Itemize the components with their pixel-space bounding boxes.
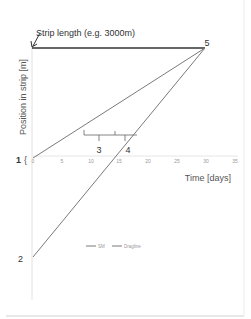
dragline-series-line xyxy=(33,48,205,257)
x-tick: 0 xyxy=(32,158,35,164)
brace-icon: { xyxy=(24,155,27,165)
point-label-4: 4 xyxy=(125,145,130,155)
x-tick: 30 xyxy=(203,158,209,164)
legend-sm-label: SM xyxy=(98,244,105,249)
point-label-1: 1 xyxy=(16,155,21,165)
legend: SM Dragline xyxy=(86,244,141,249)
time-position-diagram: 0 5 10 15 20 25 30 35 Time [days] Positi… xyxy=(0,0,251,319)
x-tick: 5 xyxy=(61,158,64,164)
x-tick-labels: 0 5 10 15 20 25 30 35 xyxy=(32,158,238,164)
x-tick: 20 xyxy=(145,158,151,164)
point-label-5: 5 xyxy=(204,38,209,48)
strip-length-label: Strip length (e.g. 3000m) xyxy=(36,28,135,38)
point-label-2: 2 xyxy=(18,254,23,264)
x-tick: 15 xyxy=(116,158,122,164)
x-axis-title: Time [days] xyxy=(185,173,231,183)
gap-bracket xyxy=(84,130,137,141)
y-axis-title: Position in strip [m] xyxy=(18,59,28,135)
sm-series-line xyxy=(33,48,205,158)
x-tick: 25 xyxy=(174,158,180,164)
legend-dragline-label: Dragline xyxy=(124,244,141,249)
x-tick: 35 xyxy=(232,158,238,164)
point-label-3: 3 xyxy=(96,145,101,155)
x-tick: 10 xyxy=(88,158,94,164)
